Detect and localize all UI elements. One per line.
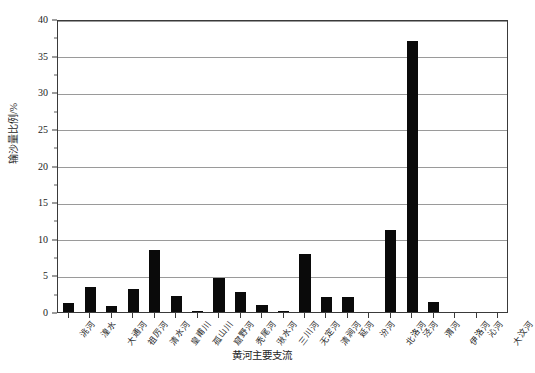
y-axis: 输沙量比例/% 0510152025303540 xyxy=(0,0,57,313)
x-tick xyxy=(197,313,198,318)
x-tick-label: 清水河 xyxy=(168,320,192,347)
bar xyxy=(321,297,332,312)
y-tick-label: 30 xyxy=(38,88,48,98)
bars-layer xyxy=(58,21,507,312)
x-tick-label: 湟水 xyxy=(100,320,118,340)
x-tick xyxy=(218,313,219,318)
y-tick-label: 5 xyxy=(43,271,48,281)
x-axis-title: 黄河主要支流 xyxy=(0,350,517,362)
bar xyxy=(192,311,203,312)
y-tick-label: 15 xyxy=(38,198,48,208)
x-tick-label: 无定河 xyxy=(318,320,342,347)
plot-area xyxy=(57,20,508,313)
x-tick-label: 湫水河 xyxy=(275,320,299,347)
bar xyxy=(278,311,289,312)
y-tick-label: 0 xyxy=(43,308,48,318)
bar xyxy=(85,287,96,312)
x-tick xyxy=(304,313,305,318)
y-tick-label: 25 xyxy=(38,125,48,135)
x-tick-label: 大汶河 xyxy=(512,320,535,347)
x-tick-label: 三川河 xyxy=(297,320,321,347)
bar xyxy=(149,250,160,312)
bar xyxy=(407,41,418,312)
x-tick-label: 秃尾河 xyxy=(254,320,278,347)
x-tick xyxy=(132,313,133,318)
bar xyxy=(385,230,396,312)
x-tick xyxy=(390,313,391,318)
x-tick-label: 祖厉河 xyxy=(147,320,171,347)
x-tick-label: 大通河 xyxy=(125,320,149,347)
x-tick xyxy=(347,313,348,318)
x-tick-label: 汾河 xyxy=(379,320,397,340)
x-tick xyxy=(411,313,412,318)
x-tick xyxy=(325,313,326,318)
x-tick xyxy=(111,313,112,318)
x-tick xyxy=(89,313,90,318)
x-tick xyxy=(476,313,477,318)
x-axis-title-text: 黄河主要支流 xyxy=(232,350,292,362)
x-tick-label: 洮河 xyxy=(79,320,97,340)
x-tick xyxy=(433,313,434,318)
bar xyxy=(213,278,224,312)
bar xyxy=(256,305,267,312)
bar xyxy=(171,296,182,312)
x-tick xyxy=(154,313,155,318)
x-tick-label: 皇甫川 xyxy=(189,320,213,347)
bar xyxy=(235,292,246,313)
x-tick-label: 孤山川 xyxy=(211,320,235,347)
bar xyxy=(342,297,353,312)
x-tick xyxy=(368,313,369,318)
bar xyxy=(428,302,439,312)
y-tick-label: 20 xyxy=(38,162,48,172)
bar xyxy=(299,254,310,312)
x-tick xyxy=(175,313,176,318)
bar xyxy=(128,289,139,312)
bar xyxy=(106,306,117,312)
x-tick xyxy=(497,313,498,318)
y-tick-label: 40 xyxy=(38,15,48,25)
bar xyxy=(63,303,74,312)
x-tick xyxy=(283,313,284,318)
x-tick xyxy=(240,313,241,318)
x-tick-label: 渭河 xyxy=(444,320,462,340)
y-tick-label: 10 xyxy=(38,235,48,245)
x-tick-label: 窟野河 xyxy=(232,320,256,347)
y-tick-label: 35 xyxy=(38,52,48,62)
x-tick xyxy=(454,313,455,318)
y-axis-title: 输沙量比例/% xyxy=(8,74,19,194)
x-tick xyxy=(261,313,262,318)
x-tick xyxy=(68,313,69,318)
